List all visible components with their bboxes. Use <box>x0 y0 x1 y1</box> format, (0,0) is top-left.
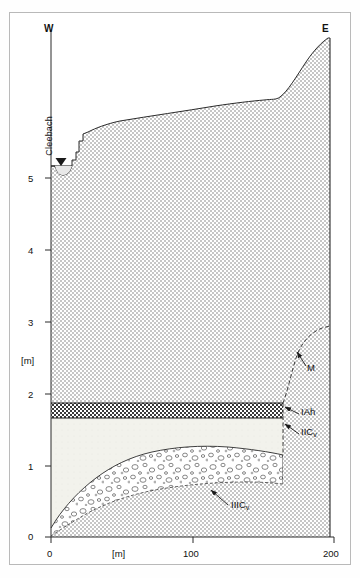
y-tick-label-2: 2 <box>28 389 33 400</box>
y-tick-label-1: 1 <box>28 461 33 472</box>
x-tick-label-0: 0 <box>47 548 52 559</box>
unit-label-iicv-sub: v <box>313 431 317 438</box>
unit-iah-band <box>51 403 283 418</box>
unit-label-m: M <box>307 362 315 373</box>
unit-label-iiicv-text: IIIC <box>231 499 246 510</box>
x-axis-unit-label: [m] <box>112 548 125 559</box>
x-axis-ticks <box>51 537 334 543</box>
compass-label-west: W <box>44 23 53 34</box>
compass-label-east: E <box>322 23 329 34</box>
y-tick-label-0: 0 <box>28 531 33 542</box>
unit-label-iicv: IICv <box>301 426 317 437</box>
water-level-marker-icon <box>56 158 67 166</box>
y-tick-label-3: 3 <box>28 317 33 328</box>
x-tick-label-100: 100 <box>183 548 199 559</box>
unit-label-iah-text: IAh <box>301 406 315 417</box>
unit-label-m-text: M <box>307 362 315 373</box>
y-tick-label-5: 5 <box>28 173 33 184</box>
stream-label-cleebach: Cleebach <box>44 116 54 156</box>
unit-label-iicv-text: IIC <box>301 426 313 437</box>
unit-label-iiicv: IIICv <box>231 499 249 510</box>
y-axis-ticks <box>45 178 51 537</box>
y-axis-unit-label: [m] <box>21 355 34 366</box>
cross-section-drawing <box>0 0 360 578</box>
figure-root: W E Cleebach 5 4 3 2 1 0 [m] 0 [m] 100 2… <box>0 0 360 578</box>
unit-label-iah: IAh <box>301 406 315 417</box>
y-tick-label-4: 4 <box>28 245 33 256</box>
x-tick-label-200: 200 <box>323 548 339 559</box>
unit-label-iiicv-sub: v <box>246 504 250 511</box>
